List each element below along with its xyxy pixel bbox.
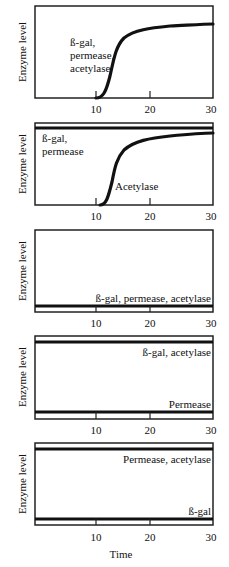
panel-1-tick-label-20: 20	[145, 103, 157, 115]
panel-3-tick-label-10: 10	[91, 317, 103, 329]
panel-2: ß-gal, permease Acetylase Enzyme level 1…	[16, 123, 217, 222]
x-axis-label: Time	[110, 548, 133, 560]
panel-2-label-acetylase: Acetylase	[115, 180, 158, 192]
panel-1-label-line-2: permease,	[70, 49, 115, 61]
panel-1-tick-label-30: 30	[206, 103, 218, 115]
panel-3-label: ß-gal, permease, acetylase	[96, 292, 212, 304]
panel-2-y-axis-label: Enzyme level	[16, 134, 28, 194]
panel-3: ß-gal, permease, acetylase Enzyme level …	[16, 230, 217, 329]
panel-1-label-line-3: acetylase	[70, 62, 110, 74]
panel-4: ß-gal, acetylase Permease Enzyme level 1…	[16, 336, 217, 436]
panel-1: ß-gal, permease, acetylase Enzyme level …	[16, 6, 217, 115]
panel-2-tick-label-30: 30	[206, 210, 218, 222]
panel-5-label-top: Permease, acetylase	[123, 453, 211, 465]
enzyme-level-figure: ß-gal, permease, acetylase Enzyme level …	[0, 0, 229, 567]
panel-5-tick-label-10: 10	[91, 531, 103, 543]
panel-4-tick-label-10: 10	[91, 424, 103, 436]
panel-5-y-axis-label: Enzyme level	[16, 454, 28, 514]
panel-5-label-bottom: ß-gal	[188, 505, 211, 517]
curve-bgal-permease-acetylase	[96, 24, 213, 98]
panel-3-tick-label-30: 30	[206, 317, 218, 329]
panel-4-label-bottom: Permease	[169, 398, 211, 410]
curve-acetylase	[100, 133, 213, 205]
panel-2-label-line-2: permease	[42, 145, 84, 157]
panel-4-y-axis-label: Enzyme level	[16, 347, 28, 407]
panel-1-y-axis-label: Enzyme level	[16, 22, 28, 82]
panel-2-tick-label-10: 10	[91, 210, 103, 222]
panel-3-tick-label-20: 20	[145, 317, 157, 329]
panel-3-y-axis-label: Enzyme level	[16, 241, 28, 301]
panel-4-label-top: ß-gal, acetylase	[143, 346, 212, 358]
panel-1-label-line-1: ß-gal,	[70, 36, 96, 48]
panel-1-tick-label-10: 10	[91, 103, 103, 115]
panel-5-tick-label-20: 20	[145, 531, 157, 543]
panel-4-tick-label-30: 30	[206, 424, 218, 436]
panel-1-frame	[35, 6, 213, 98]
panel-2-label-line-1: ß-gal,	[42, 132, 68, 144]
panel-5: Permease, acetylase ß-gal Enzyme level 1…	[16, 443, 217, 543]
panel-5-tick-label-30: 30	[206, 531, 218, 543]
panel-4-tick-label-20: 20	[145, 424, 157, 436]
panel-2-tick-label-20: 20	[145, 210, 157, 222]
